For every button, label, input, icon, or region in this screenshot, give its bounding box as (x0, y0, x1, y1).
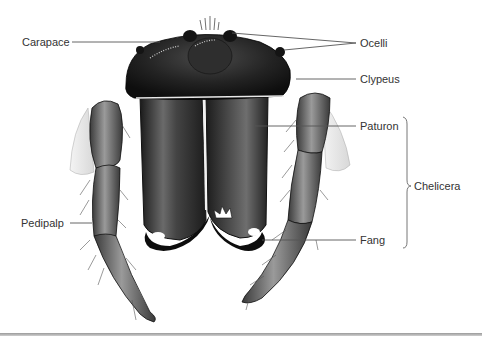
label-paturon: Paturon (360, 120, 399, 132)
label-clypeus: Clypeus (360, 73, 400, 85)
ocelli-leader-2 (284, 43, 356, 50)
chelicera-brace (403, 117, 411, 248)
bottom-divider-rule (0, 333, 482, 336)
label-chelicera: Chelicera (414, 180, 460, 192)
label-ocelli: Ocelli (360, 37, 388, 49)
label-pedipalp: Pedipalp (21, 217, 64, 229)
label-carapace: Carapace (22, 36, 70, 48)
paturons (140, 96, 268, 240)
label-fang: Fang (360, 234, 385, 246)
carapace (126, 16, 291, 100)
spider-chelicerae-illustration (0, 0, 482, 345)
